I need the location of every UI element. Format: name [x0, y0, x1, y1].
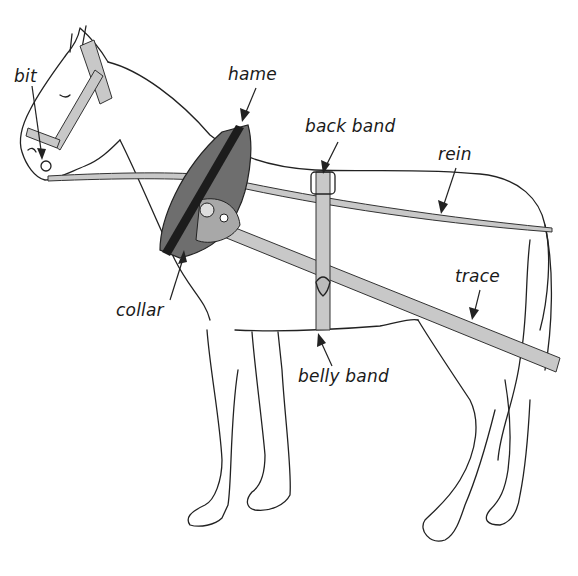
label-back-band: back band — [305, 116, 395, 136]
label-trace: trace — [455, 266, 500, 286]
label-rein: rein — [438, 144, 472, 164]
label-hame: hame — [228, 64, 277, 84]
label-belly-band: belly band — [298, 366, 389, 386]
label-arrows — [32, 86, 480, 366]
horse-illustration — [0, 0, 578, 576]
harness-diagram: bit hame back band rein trace collar bel… — [0, 0, 578, 576]
rein-strap — [48, 173, 552, 232]
back-band-strap — [316, 172, 330, 330]
label-bit: bit — [14, 66, 37, 86]
label-collar: collar — [116, 300, 164, 320]
trace-strap — [224, 225, 560, 372]
